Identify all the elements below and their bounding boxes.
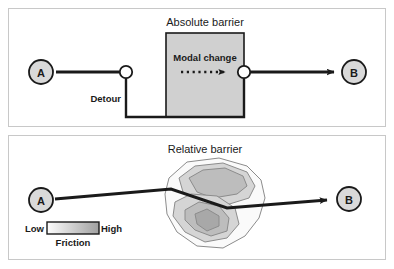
interchange-node-right xyxy=(238,66,250,78)
absolute-barrier-box xyxy=(166,33,244,117)
panel-absolute-barrier: Absolute barrier A B xyxy=(8,8,386,127)
modal-change-label: Modal change xyxy=(173,52,236,63)
friction-gradient-bar xyxy=(47,222,99,234)
relative-barrier-canvas: Relative barrier A xyxy=(9,136,385,259)
node-origin-a-label: A xyxy=(37,67,45,79)
node-origin-a: A xyxy=(29,60,53,84)
panel-absolute-title: Absolute barrier xyxy=(166,16,244,28)
barrier-diagram-figure: Absolute barrier A B xyxy=(0,0,394,269)
friction-legend: Low High Friction xyxy=(25,222,122,248)
friction-legend-caption: Friction xyxy=(56,237,91,248)
panel-relative-title: Relative barrier xyxy=(168,143,243,155)
node-destination-b: B xyxy=(337,187,361,211)
node-origin-a: A xyxy=(29,188,53,212)
friction-legend-high-label: High xyxy=(101,223,122,234)
panel-relative-barrier: Relative barrier A xyxy=(8,135,386,260)
interchange-node-left xyxy=(120,66,132,78)
node-destination-b: B xyxy=(342,60,366,84)
friction-legend-low-label: Low xyxy=(25,223,45,234)
absolute-barrier-canvas: Absolute barrier A B xyxy=(9,9,385,126)
node-origin-a-label: A xyxy=(37,195,45,207)
node-destination-b-label: B xyxy=(345,194,353,206)
node-destination-b-label: B xyxy=(350,67,358,79)
detour-label: Detour xyxy=(90,93,121,104)
